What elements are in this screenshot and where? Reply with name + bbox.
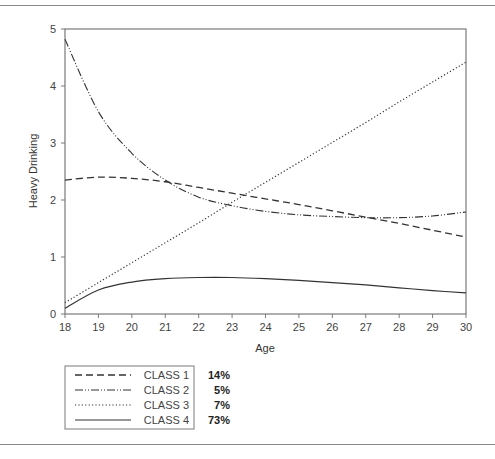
- plot-frame: [65, 29, 466, 314]
- x-tick-label: 28: [393, 321, 405, 333]
- series-group: [65, 39, 466, 308]
- x-tick-label: 26: [326, 321, 338, 333]
- legend-label: CLASS 4: [144, 414, 189, 426]
- legend-share: 14%: [208, 369, 230, 381]
- legend-share: 73%: [208, 414, 230, 426]
- series-line-class-4: [65, 277, 466, 308]
- y-axis-label: Heavy Drinking: [27, 134, 39, 209]
- line-chart: 18192021222324252627282930012345 Age Hea…: [0, 0, 495, 459]
- legend-share: 7%: [214, 399, 230, 411]
- x-tick-label: 25: [293, 321, 305, 333]
- series-line-class-2: [65, 39, 466, 218]
- x-tick-label: 29: [426, 321, 438, 333]
- legend-label: CLASS 3: [144, 399, 189, 411]
- legend-share: 5%: [214, 384, 230, 396]
- y-tick-label: 3: [50, 137, 56, 149]
- series-line-class-3: [65, 62, 466, 303]
- x-axis-label: Age: [255, 342, 275, 354]
- x-tick-label: 22: [193, 321, 205, 333]
- legend: CLASS 114%CLASS 25%CLASS 37%CLASS 473%: [65, 366, 230, 429]
- x-tick-label: 23: [226, 321, 238, 333]
- y-tick-label: 2: [50, 194, 56, 206]
- x-tick-label: 27: [360, 321, 372, 333]
- axes: 18192021222324252627282930012345: [50, 23, 472, 333]
- x-tick-label: 20: [126, 321, 138, 333]
- y-tick-label: 0: [50, 308, 56, 320]
- y-tick-label: 1: [50, 251, 56, 263]
- x-tick-label: 24: [259, 321, 271, 333]
- x-tick-label: 18: [59, 321, 71, 333]
- x-tick-label: 19: [92, 321, 104, 333]
- legend-label: CLASS 2: [144, 384, 189, 396]
- legend-label: CLASS 1: [144, 369, 189, 381]
- y-tick-label: 4: [50, 80, 56, 92]
- x-tick-label: 21: [159, 321, 171, 333]
- x-tick-label: 30: [460, 321, 472, 333]
- series-line-class-1: [65, 177, 466, 237]
- y-tick-label: 5: [50, 23, 56, 35]
